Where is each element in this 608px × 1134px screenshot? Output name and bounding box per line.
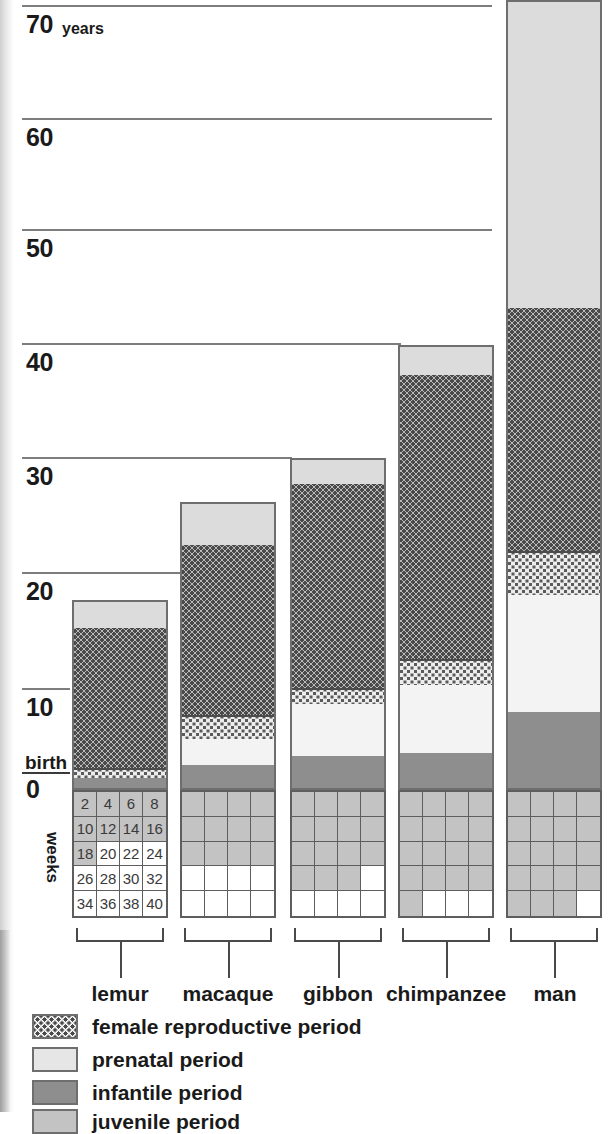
week-cell [531, 792, 554, 817]
week-cell [577, 792, 600, 817]
segment-chimpanzee-female-reproductive [398, 375, 494, 661]
legend-item-juvenile[interactable]: juvenile period [32, 1109, 240, 1134]
week-cell: 2 [74, 792, 97, 817]
week-cell [554, 792, 577, 817]
bracket-stem-chimpanzee [446, 942, 448, 978]
week-cell [469, 891, 492, 916]
bracket-stem-gibbon [338, 942, 340, 978]
legend-label-juvenile: juvenile period [92, 1110, 240, 1134]
legend-item-infantile[interactable]: infantile period [32, 1080, 243, 1105]
segment-lemur-infantile [72, 778, 168, 790]
axis-tick-40: 40 [26, 348, 53, 377]
week-cell [446, 866, 469, 891]
segment-man-female-reproductive [506, 308, 602, 553]
segment-man-post-reproductive [506, 0, 602, 308]
bracket-stem-macaque [228, 942, 230, 978]
week-cell [469, 817, 492, 842]
bar-macaque[interactable] [180, 502, 276, 790]
week-cell [292, 817, 315, 842]
week-cell [182, 842, 205, 867]
week-cell [361, 817, 384, 842]
segment-man-juvenile-dots [506, 553, 602, 595]
week-cell [251, 866, 274, 891]
week-cell [228, 792, 251, 817]
gestation-grid-gibbon[interactable] [290, 790, 386, 918]
week-cell: 22 [120, 842, 143, 867]
week-cell: 26 [74, 866, 97, 891]
week-cell [228, 817, 251, 842]
gridline-40 [22, 343, 401, 345]
week-cell [469, 842, 492, 867]
week-cell [292, 891, 315, 916]
gridline-30 [22, 457, 292, 459]
week-cell [361, 792, 384, 817]
week-cell [400, 792, 423, 817]
week-cell [577, 866, 600, 891]
legend-label-infantile: infantile period [92, 1081, 243, 1105]
week-cell [182, 891, 205, 916]
week-cell: 28 [97, 866, 120, 891]
bracket-macaque [184, 928, 272, 942]
bar-lemur[interactable] [72, 600, 168, 790]
week-cell [228, 842, 251, 867]
gestation-grid-man[interactable] [506, 790, 602, 918]
week-cell: 20 [97, 842, 120, 867]
segment-man-juvenile [506, 595, 602, 712]
week-cell: 6 [120, 792, 143, 817]
week-cell: 12 [97, 817, 120, 842]
week-cell [315, 842, 338, 867]
axis-tick-20: 20 [26, 577, 53, 606]
week-cell [446, 817, 469, 842]
week-cell [315, 792, 338, 817]
bar-man[interactable] [506, 0, 602, 790]
week-cell [423, 842, 446, 867]
week-cell [182, 817, 205, 842]
legend-label-female-reproductive: female reproductive period [92, 1015, 362, 1039]
segment-gibbon-juvenile [290, 704, 386, 756]
bracket-man [510, 928, 598, 942]
week-cell [292, 792, 315, 817]
axis-tick-50: 50 [26, 234, 53, 263]
week-cell [361, 866, 384, 891]
week-cell [469, 792, 492, 817]
week-cell [338, 792, 361, 817]
bracket-stem-man [554, 942, 556, 978]
week-cell [205, 891, 228, 916]
gestation-grid-chimpanzee[interactable] [398, 790, 494, 918]
week-cell [251, 817, 274, 842]
week-cell [554, 817, 577, 842]
axis-tick-10: 10 [26, 693, 53, 722]
week-cell [338, 817, 361, 842]
week-cell: 38 [120, 891, 143, 916]
gestation-grid-lemur[interactable]: 246810121416182022242628303234363840 [72, 790, 168, 918]
page-edge-shadow-lower [0, 930, 10, 1112]
segment-macaque-juvenile [180, 739, 276, 765]
bar-gibbon[interactable] [290, 458, 386, 790]
legend-item-female-reproductive[interactable]: female reproductive period [32, 1014, 362, 1039]
legend-item-prenatal[interactable]: prenatal period [32, 1047, 244, 1072]
week-cell: 34 [74, 891, 97, 916]
species-label-chimpanzee: chimpanzee [380, 982, 512, 1006]
week-cell: 24 [143, 842, 166, 867]
gestation-grid-macaque[interactable] [180, 790, 276, 918]
week-cell [531, 891, 554, 916]
week-cell [205, 842, 228, 867]
week-cell [531, 842, 554, 867]
axis-tick-0: 0 [26, 775, 39, 804]
week-cell [508, 866, 531, 891]
week-cell [508, 817, 531, 842]
week-cell [400, 842, 423, 867]
week-cell [469, 866, 492, 891]
segment-lemur-female-reproductive [72, 628, 168, 770]
week-cell: 10 [74, 817, 97, 842]
week-cell [205, 866, 228, 891]
week-cell [400, 866, 423, 891]
gridline-70 [22, 5, 492, 7]
week-cell: 8 [143, 792, 166, 817]
axis-tick-70: 70 [26, 10, 53, 39]
week-cell: 32 [143, 866, 166, 891]
bar-chimpanzee[interactable] [398, 345, 494, 790]
week-cell [338, 891, 361, 916]
segment-gibbon-female-reproductive [290, 484, 386, 690]
species-label-man: man [508, 982, 602, 1006]
